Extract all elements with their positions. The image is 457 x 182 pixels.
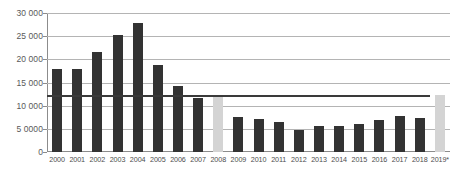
- y-axis-tick-label: 30 000: [16, 8, 43, 18]
- x-axis-tick-label: 2015: [349, 155, 369, 164]
- x-axis-tick-label: 2011: [269, 155, 289, 164]
- x-axis-tick-label: 2017: [390, 155, 410, 164]
- x-axis-tick-labels: 2000200120022003200420052006200720082009…: [47, 155, 450, 171]
- x-axis-tick-label: 2019*: [430, 155, 450, 164]
- bar: [294, 130, 304, 152]
- bar: [92, 52, 102, 152]
- bar: [72, 69, 82, 152]
- y-axis-tick-label: 15 000: [16, 78, 43, 88]
- bar: [133, 23, 143, 152]
- bar: [153, 65, 163, 152]
- bars-group: [47, 13, 450, 152]
- bar-chart: 05 000010 00015 00020 00025 00030 000 20…: [0, 0, 457, 182]
- x-axis-tick-label: 2008: [208, 155, 228, 164]
- bar: [274, 122, 284, 152]
- x-axis-tick-label: 2000: [47, 155, 67, 164]
- x-axis-tick-label: 2007: [188, 155, 208, 164]
- y-axis-tick: [43, 152, 47, 153]
- x-axis-tick-label: 2010: [249, 155, 269, 164]
- plot-area: [47, 13, 450, 152]
- y-axis-tick-label: 5 0000: [16, 124, 43, 134]
- reference-line: [47, 95, 430, 97]
- bar: [193, 98, 203, 152]
- x-axis-tick-label: 2002: [87, 155, 107, 164]
- bar: [415, 118, 425, 152]
- x-axis-tick-label: 2004: [128, 155, 148, 164]
- y-axis-tick-label: 25 000: [16, 31, 43, 41]
- bar: [233, 117, 243, 152]
- y-axis-tick-label: 10 000: [16, 101, 43, 111]
- x-axis-tick-label: 2014: [329, 155, 349, 164]
- x-axis-tick-label: 2003: [107, 155, 127, 164]
- bar: [395, 116, 405, 152]
- bar: [113, 35, 123, 152]
- x-axis-tick-label: 2006: [168, 155, 188, 164]
- bar: [354, 124, 364, 152]
- bar: [213, 95, 223, 152]
- bar: [374, 120, 384, 152]
- x-axis-tick-label: 2005: [148, 155, 168, 164]
- bar: [435, 95, 445, 152]
- bar: [52, 69, 62, 152]
- x-axis-tick-label: 2012: [289, 155, 309, 164]
- y-axis-tick-labels: 05 000010 00015 00020 00025 00030 000: [0, 13, 43, 152]
- y-axis-tick-label: 20 000: [16, 54, 43, 64]
- x-axis-tick-label: 2013: [309, 155, 329, 164]
- x-axis-tick-label: 2016: [369, 155, 389, 164]
- bar: [314, 126, 324, 152]
- bar: [254, 119, 264, 152]
- x-axis-tick-label: 2001: [67, 155, 87, 164]
- x-axis-tick-label: 2018: [410, 155, 430, 164]
- bar: [334, 126, 344, 152]
- x-axis-tick-label: 2009: [228, 155, 248, 164]
